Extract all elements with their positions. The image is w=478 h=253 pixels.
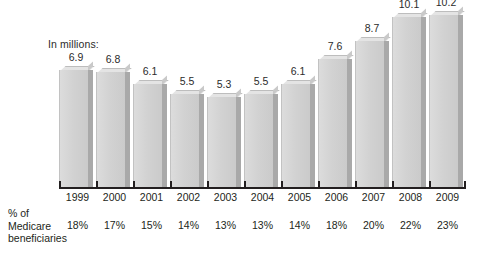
bar-side-face bbox=[458, 15, 463, 187]
bar-front-face bbox=[170, 94, 200, 187]
bar-value-label: 5.5 bbox=[170, 75, 204, 87]
x-axis-tick-label: 2002 bbox=[170, 191, 207, 203]
bar-side-face bbox=[125, 72, 130, 187]
bar-column[interactable] bbox=[392, 17, 426, 187]
bar-column[interactable] bbox=[281, 84, 315, 187]
percent-value: 22% bbox=[392, 219, 429, 231]
bar-side-face bbox=[88, 70, 93, 187]
axis-tick bbox=[392, 181, 394, 188]
axis-tick bbox=[59, 181, 61, 188]
bar-front-face bbox=[244, 94, 274, 187]
bar-front-face bbox=[355, 41, 385, 187]
bar-value-label: 10.1 bbox=[392, 0, 426, 10]
bar-value-label: 8.7 bbox=[355, 22, 389, 34]
x-axis-tick-label: 2005 bbox=[281, 191, 318, 203]
percent-value: 18% bbox=[318, 219, 355, 231]
bar-front-face bbox=[207, 97, 237, 187]
bar-value-label: 6.9 bbox=[59, 51, 93, 63]
x-axis-tick-label: 2001 bbox=[133, 191, 170, 203]
bar-value-label: 6.1 bbox=[281, 65, 315, 77]
axis-tick bbox=[355, 181, 357, 188]
axis-tick bbox=[133, 181, 135, 188]
x-axis-tick-label: 2008 bbox=[392, 191, 429, 203]
bar-value-label: 5.5 bbox=[244, 75, 278, 87]
percent-value: 23% bbox=[429, 219, 466, 231]
percent-value: 18% bbox=[59, 219, 96, 231]
axis-tick bbox=[207, 181, 209, 188]
bar-side-face bbox=[347, 59, 352, 187]
bar-column[interactable] bbox=[133, 84, 167, 187]
x-axis-tick-label: 2000 bbox=[96, 191, 133, 203]
bar-front-face bbox=[59, 70, 89, 187]
bar-column[interactable] bbox=[207, 97, 241, 187]
bar-side-face bbox=[310, 84, 315, 187]
bar-value-label: 10.2 bbox=[429, 0, 463, 8]
x-axis-tick-label: 2009 bbox=[429, 191, 466, 203]
bar-front-face bbox=[96, 72, 126, 187]
bar-side-face bbox=[273, 94, 278, 187]
axis-tick bbox=[464, 181, 466, 188]
axis-tick bbox=[244, 181, 246, 188]
bar-column[interactable] bbox=[96, 72, 130, 187]
bar-chart: In millions: 6.9 6.8 6.1 bbox=[0, 0, 478, 253]
bar-side-face bbox=[421, 17, 426, 187]
bar-front-face bbox=[318, 59, 348, 187]
bar-side-face bbox=[162, 84, 167, 187]
bar-side-face bbox=[199, 94, 204, 187]
x-axis-line bbox=[59, 187, 466, 189]
bar-value-label: 6.1 bbox=[133, 65, 167, 77]
axis-tick bbox=[429, 181, 431, 188]
bar-column[interactable] bbox=[170, 94, 204, 187]
percent-value: 14% bbox=[281, 219, 318, 231]
bar-value-label: 6.8 bbox=[96, 53, 130, 65]
percent-value: 20% bbox=[355, 219, 392, 231]
axis-tick bbox=[281, 181, 283, 188]
axis-tick bbox=[96, 181, 98, 188]
percent-row-label-line-1: % of bbox=[8, 207, 67, 220]
x-axis-tick-label: 2003 bbox=[207, 191, 244, 203]
percent-row-label-line-3: beneficiaries bbox=[8, 232, 67, 245]
x-axis-tick-label: 2004 bbox=[244, 191, 281, 203]
bar-column[interactable] bbox=[355, 41, 389, 187]
bar-column[interactable] bbox=[59, 70, 93, 187]
bar-front-face bbox=[133, 84, 163, 187]
bar-value-label: 7.6 bbox=[318, 40, 352, 52]
percent-value: 15% bbox=[133, 219, 170, 231]
bar-column[interactable] bbox=[318, 59, 352, 187]
bar-column[interactable] bbox=[429, 15, 463, 187]
bar-front-face bbox=[281, 84, 311, 187]
percent-value: 14% bbox=[170, 219, 207, 231]
x-axis-tick-label: 2007 bbox=[355, 191, 392, 203]
bar-front-face bbox=[429, 15, 459, 187]
x-axis-tick-label: 2006 bbox=[318, 191, 355, 203]
bar-front-face bbox=[392, 17, 422, 187]
percent-value: 13% bbox=[207, 219, 244, 231]
bar-column[interactable] bbox=[244, 94, 278, 187]
axis-tick bbox=[318, 181, 320, 188]
bar-side-face bbox=[236, 97, 241, 187]
bar-side-face bbox=[384, 41, 389, 187]
percent-value: 13% bbox=[244, 219, 281, 231]
percent-value: 17% bbox=[96, 219, 133, 231]
axis-tick bbox=[170, 181, 172, 188]
bar-value-label: 5.3 bbox=[207, 78, 241, 90]
x-axis-tick-label: 1999 bbox=[59, 191, 96, 203]
plot-area: 6.9 6.8 6.1 bbox=[59, 10, 466, 187]
